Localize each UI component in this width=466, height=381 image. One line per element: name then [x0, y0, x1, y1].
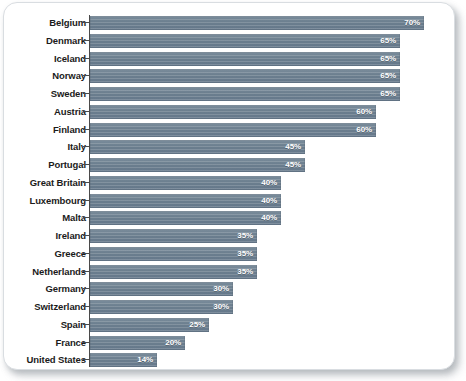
bar-row: Ireland35%	[4, 227, 455, 245]
bar-value-label: 60%	[356, 105, 372, 119]
axis-tick	[83, 200, 89, 201]
bar-value-label: 35%	[237, 265, 253, 279]
bar-value-label: 65%	[380, 69, 396, 83]
category-label: Iceland	[3, 50, 86, 68]
bar-value-label: 65%	[380, 34, 396, 48]
bar-row: Austria60%	[4, 103, 455, 121]
category-label: Finland	[3, 121, 86, 139]
axis-tick	[83, 129, 89, 130]
bar-row: Spain25%	[4, 316, 455, 334]
category-label: Netherlands	[3, 263, 86, 281]
bar-value-label: 65%	[380, 87, 396, 101]
axis-tick	[83, 22, 89, 23]
bar: 45%	[90, 140, 305, 154]
category-label: Sweden	[3, 85, 86, 103]
bar: 60%	[90, 123, 376, 137]
category-label: Great Britain	[3, 174, 86, 192]
axis-tick	[83, 217, 89, 218]
bar: 40%	[90, 194, 281, 208]
axis-tick	[83, 164, 89, 165]
bar-value-label: 30%	[213, 300, 229, 314]
bar-row: Luxembourg40%	[4, 192, 455, 210]
category-label: Portugal	[3, 156, 86, 174]
bar: 60%	[90, 105, 376, 119]
category-label: Italy	[3, 138, 86, 156]
bar-row: Norway65%	[4, 67, 455, 85]
axis-tick	[83, 58, 89, 59]
category-label: Greece	[3, 245, 86, 263]
bar-value-label: 35%	[237, 247, 253, 261]
bar-row: Finland60%	[4, 121, 455, 139]
bar-value-label: 40%	[261, 211, 277, 225]
bar-row: Italy45%	[4, 138, 455, 156]
bar-row: United States14%	[4, 351, 455, 369]
category-label: Switzerland	[3, 298, 86, 316]
bar-row: Netherlands35%	[4, 263, 455, 281]
bar-value-label: 14%	[137, 353, 153, 367]
category-label: Spain	[3, 316, 86, 334]
category-label: Malta	[3, 209, 86, 227]
bar-value-label: 45%	[285, 158, 301, 172]
axis-tick	[83, 359, 89, 360]
bar-value-label: 25%	[189, 318, 205, 332]
category-label: United States	[3, 351, 86, 369]
axis-tick	[83, 40, 89, 41]
category-label: Norway	[3, 67, 86, 85]
bar: 35%	[90, 229, 257, 243]
category-label: Ireland	[3, 227, 86, 245]
category-label: Austria	[3, 103, 86, 121]
bar: 30%	[90, 300, 233, 314]
bar: 35%	[90, 247, 257, 261]
axis-tick	[83, 235, 89, 236]
bar: 65%	[90, 34, 400, 48]
bar-row: Sweden65%	[4, 85, 455, 103]
bar-row: Greece35%	[4, 245, 455, 263]
axis-tick	[83, 146, 89, 147]
bar: 65%	[90, 52, 400, 66]
bar-value-label: 40%	[261, 194, 277, 208]
bar-row: Portugal45%	[4, 156, 455, 174]
bar: 35%	[90, 265, 257, 279]
bar-row: Iceland65%	[4, 50, 455, 68]
bar-row: Switzerland30%	[4, 298, 455, 316]
bar-value-label: 30%	[213, 282, 229, 296]
bar: 30%	[90, 282, 233, 296]
bar: 40%	[90, 176, 281, 190]
bar: 14%	[90, 353, 157, 367]
axis-tick	[83, 306, 89, 307]
bar: 20%	[90, 336, 185, 350]
axis-tick	[83, 324, 89, 325]
category-label: France	[3, 334, 86, 352]
bar-value-label: 65%	[380, 52, 396, 66]
axis-tick	[83, 271, 89, 272]
axis-tick	[83, 253, 89, 254]
category-label: Denmark	[3, 32, 86, 50]
bar-row: France20%	[4, 334, 455, 352]
axis-tick	[83, 342, 89, 343]
bar: 65%	[90, 87, 400, 101]
bar-value-label: 70%	[404, 16, 420, 30]
bar-value-label: 40%	[261, 176, 277, 190]
bar-value-label: 45%	[285, 140, 301, 154]
bar-value-label: 35%	[237, 229, 253, 243]
bar-row: Germany30%	[4, 280, 455, 298]
bar-row: Great Britain40%	[4, 174, 455, 192]
axis-tick	[83, 182, 89, 183]
bar: 70%	[90, 16, 424, 30]
bar-value-label: 60%	[356, 123, 372, 137]
category-label: Germany	[3, 280, 86, 298]
bar-chart-plot-area: Belgium70%Denmark65%Iceland65%Norway65%S…	[4, 3, 455, 370]
bar-value-label: 20%	[165, 336, 181, 350]
axis-tick	[83, 288, 89, 289]
axis-tick	[83, 111, 89, 112]
axis-tick	[83, 75, 89, 76]
bar: 65%	[90, 69, 400, 83]
bar: 40%	[90, 211, 281, 225]
chart-card: Belgium70%Denmark65%Iceland65%Norway65%S…	[3, 2, 455, 370]
category-label: Luxembourg	[3, 192, 86, 210]
category-label: Belgium	[3, 14, 86, 32]
bar-row: Belgium70%	[4, 14, 455, 32]
bar-row: Denmark65%	[4, 32, 455, 50]
bar-row: Malta40%	[4, 209, 455, 227]
bar: 45%	[90, 158, 305, 172]
